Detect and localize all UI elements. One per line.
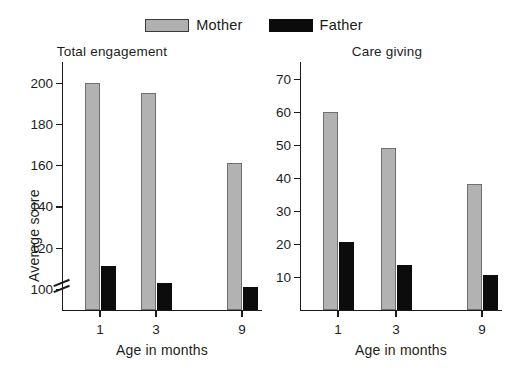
y-tick-mark [294,79,301,80]
legend-swatch-mother [145,19,189,32]
bar-mother-age-9 [467,184,482,309]
bar-father-age-3 [397,265,412,310]
bar-mother-age-3 [381,148,396,310]
plot-area-left: 100120140160180200139 [62,62,262,311]
bar-mother-age-9 [227,163,242,309]
y-tick-mark [294,145,301,146]
y-tick-mark [294,277,301,278]
y-tick-label: 160 [30,158,53,173]
y-tick-label: 50 [276,137,291,152]
legend-item-father: Father [269,17,363,33]
x-tick-label: 3 [152,322,160,337]
y-tick-label: 30 [276,203,291,218]
y-tick-mark [294,244,301,245]
y-axis-label-left: Average score [26,189,42,282]
y-tick-mark [294,178,301,179]
y-tick-label: 20 [276,236,291,251]
y-tick-mark [56,289,63,290]
y-tick-mark [56,165,63,166]
y-tick-label: 10 [276,269,291,284]
y-axis-break-icon [51,277,73,297]
bar-mother-age-1 [85,83,100,310]
x-tick-mark [395,311,396,317]
x-tick-label: 9 [238,322,246,337]
y-axis-left [62,62,63,311]
y-tick-label: 200 [30,75,53,90]
x-tick-mark [241,311,242,317]
x-tick-mark [155,311,156,317]
chart-title-right: Care giving [292,44,482,59]
x-tick-mark [337,311,338,317]
plot-area-right: 10203040506070139 [300,62,502,311]
chart-title-left: Total engagement [12,44,212,59]
x-tick-label: 1 [96,322,104,337]
bar-father-age-9 [243,287,258,310]
y-tick-label: 180 [30,116,53,131]
y-tick-mark [294,211,301,212]
chart-panel-total-engagement: Total engagement 100120140160180200139 A… [0,42,268,369]
y-axis-right [300,62,301,311]
y-tick-label: 100 [30,281,53,296]
y-tick-mark [56,83,63,84]
x-axis-label-right: Age in months [300,342,502,358]
x-tick-mark [481,311,482,317]
bar-father-age-3 [157,283,172,310]
y-tick-mark [56,206,63,207]
legend-swatch-father [269,19,313,32]
chart-panel-care-giving: Care giving 10203040506070139 Age in mon… [262,42,508,369]
x-tick-label: 9 [478,322,486,337]
y-tick-label: 40 [276,170,291,185]
bar-father-age-1 [339,242,354,310]
legend-label-father: Father [320,17,363,33]
bar-father-age-1 [101,266,116,309]
x-axis-right [300,310,502,311]
legend-item-mother: Mother [145,17,242,33]
y-tick-label: 60 [276,104,291,119]
bar-mother-age-3 [141,93,156,310]
y-tick-mark [56,248,63,249]
bar-father-age-9 [483,275,498,310]
x-axis-left [62,310,262,311]
y-tick-label: 70 [276,71,291,86]
x-tick-label: 1 [334,322,342,337]
x-tick-mark [99,311,100,317]
y-tick-mark [294,112,301,113]
bar-mother-age-1 [323,112,338,310]
y-tick-mark [56,124,63,125]
chart-legend: Mother Father [0,12,508,38]
x-axis-label-left: Age in months [62,342,262,358]
legend-label-mother: Mother [196,17,242,33]
x-tick-label: 3 [392,322,400,337]
